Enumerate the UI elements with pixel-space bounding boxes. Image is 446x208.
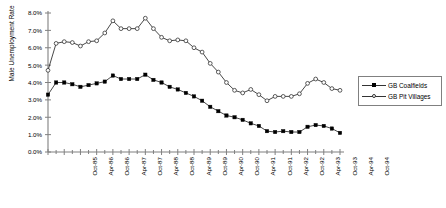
legend-label: GB Pit Villages <box>387 93 431 100</box>
legend-item-pit-villages: GB Pit Villages <box>361 91 439 102</box>
chart-container: Male Unemployment Rate 8.0%7.0%6.0%5.0%4… <box>0 0 446 208</box>
chart-legend: GB Coalfields GB Pit Villages <box>358 76 442 106</box>
legend-item-coalfields: GB Coalfields <box>361 80 439 91</box>
legend-marker-open-circle-icon <box>361 91 387 102</box>
legend-label: GB Coalfields <box>387 82 427 89</box>
legend-marker-filled-square-icon <box>361 80 387 91</box>
